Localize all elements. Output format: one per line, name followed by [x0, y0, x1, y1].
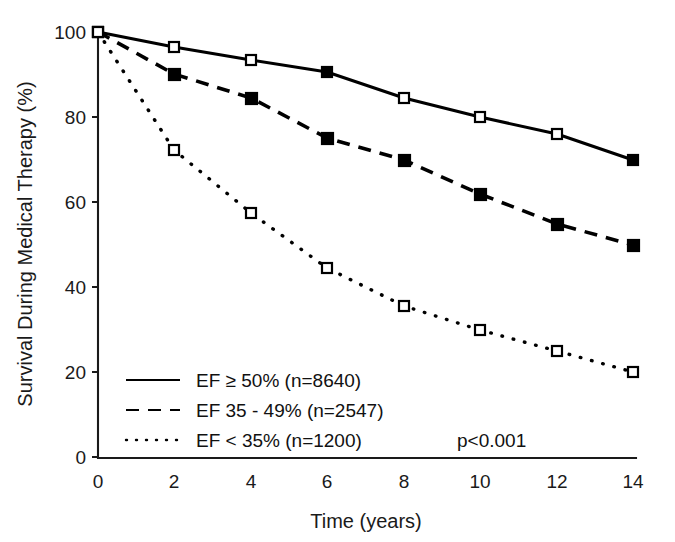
series-ef-35-49-marker-6: [552, 219, 563, 230]
series-ef-lt-35-marker-6: [552, 346, 562, 356]
series-ef-35-49-marker-2: [246, 93, 257, 104]
series-ef-35-49-marker-7: [628, 240, 639, 251]
legend-label-ef-lt-35: EF < 35% (n=1200): [196, 430, 362, 451]
y-tick-label-100: 100: [54, 22, 86, 43]
survival-curve-figure: 100 80 60 40 20 0 0 2 4 6 8 10 12 14 Tim…: [0, 0, 675, 542]
series-ef-ge-50-marker-3: [322, 67, 332, 77]
y-tick-label-80: 80: [65, 107, 86, 128]
series-ef-lt-35-line: [98, 32, 633, 372]
x-tick-label-14: 14: [622, 471, 644, 492]
legend-label-ef-35-49: EF 35 - 49% (n=2547): [196, 400, 383, 421]
p-value-annotation: p<0.001: [457, 430, 526, 451]
series-ef-35-49-marker-1: [169, 69, 180, 80]
series-ef-lt-35-marker-1: [169, 145, 179, 155]
x-tick-label-2: 2: [169, 471, 180, 492]
series-ef-35-49-marker-5: [475, 189, 486, 200]
plot-canvas: 100 80 60 40 20 0 0 2 4 6 8 10 12 14 Tim…: [0, 0, 675, 542]
series-ef-ge-50-marker-7: [628, 155, 638, 165]
x-tick-label-12: 12: [546, 471, 567, 492]
x-tick-label-8: 8: [399, 471, 410, 492]
y-tick-label-0: 0: [75, 447, 86, 468]
series-ef-ge-50-marker-6: [552, 129, 562, 139]
x-axis-title: Time (years): [310, 510, 421, 532]
series-ef-35-49-marker-4: [399, 155, 410, 166]
legend-label-ef-ge-50: EF ≥ 50% (n=8640): [196, 370, 361, 391]
y-tick-label-20: 20: [65, 362, 86, 383]
y-tick-label-40: 40: [65, 277, 86, 298]
legend-entry-ef-ge-50: EF ≥ 50% (n=8640): [126, 370, 361, 391]
series-ef-35-49-marker-3: [322, 133, 333, 144]
legend-entry-ef-lt-35: EF < 35% (n=1200): [126, 430, 362, 451]
legend: EF ≥ 50% (n=8640) EF 35 - 49% (n=2547) E…: [126, 370, 383, 451]
x-axis-tick-labels: 0 2 4 6 8 10 12 14: [93, 471, 644, 492]
series-ef-ge-50-marker-4: [399, 93, 409, 103]
series-ef-lt-35-marker-4: [399, 301, 409, 311]
series-ef-lt-35-marker-7: [628, 367, 638, 377]
y-axis-title: Survival During Medical Therapy (%): [14, 81, 36, 406]
series-ef-lt-35-marker-3: [322, 263, 332, 273]
x-tick-label-0: 0: [93, 471, 104, 492]
series-ef-lt-35-marker-5: [475, 325, 485, 335]
y-tick-label-60: 60: [65, 192, 86, 213]
series-ef-ge-50-marker-2: [246, 55, 256, 65]
legend-entry-ef-35-49: EF 35 - 49% (n=2547): [126, 400, 383, 421]
series-ef-ge-50-marker-5: [475, 112, 485, 122]
series-ef-ge-50-marker-1: [169, 42, 179, 52]
x-tick-label-4: 4: [246, 471, 257, 492]
y-axis-tick-labels: 100 80 60 40 20 0: [54, 22, 86, 468]
series-ef-lt-35-marker-0: [93, 27, 103, 37]
x-tick-label-6: 6: [322, 471, 333, 492]
series-ef-lt-35-marker-2: [246, 208, 256, 218]
x-tick-label-10: 10: [469, 471, 490, 492]
axis-spines: [98, 30, 636, 458]
